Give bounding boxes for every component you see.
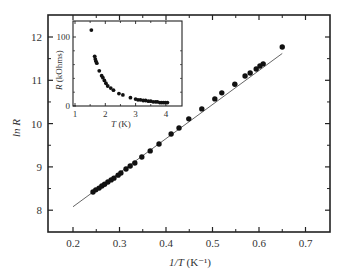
inset-y-axis-title: R (kOhms) (54, 50, 64, 91)
inset-data-point (89, 28, 93, 32)
y-tick-label: 10 (31, 118, 43, 130)
x-tick-label: 0.5 (206, 237, 220, 249)
inset-x-tick-label: 1 (73, 109, 78, 119)
inset-data-point (97, 69, 101, 73)
x-tick-label: 0.4 (159, 237, 173, 249)
inset-y-tick-label: 0 (66, 101, 71, 111)
data-point (176, 125, 181, 130)
data-point (118, 170, 123, 175)
inset-data-point (129, 96, 133, 100)
y-tick-label: 12 (31, 31, 42, 43)
x-tick-label: 0.6 (252, 237, 266, 249)
data-point (186, 116, 191, 121)
x-tick-label: 0.3 (113, 237, 127, 249)
data-point (247, 70, 252, 75)
data-point (139, 154, 144, 159)
inset-x-axis-title: T (K) (111, 119, 131, 129)
data-point (132, 160, 137, 165)
y-tick-label: 11 (31, 74, 42, 86)
data-point (260, 61, 265, 66)
inset-plot-frame (73, 21, 182, 106)
inset-y-tick-label: 100 (57, 32, 71, 42)
data-point (127, 163, 132, 168)
x-tick-label: 0.7 (299, 237, 313, 249)
main-y-axis-title: ln R (10, 119, 22, 137)
inset-data-point (166, 101, 170, 105)
inset-x-tick-label: 3 (133, 109, 138, 119)
data-point (212, 96, 217, 101)
data-point (242, 73, 247, 78)
inset-data-point (95, 61, 99, 65)
data-point (232, 81, 237, 86)
inset-plot: 1234 0100 R (kOhms) T (K) (54, 21, 182, 129)
data-point (199, 106, 204, 111)
data-point (168, 131, 173, 136)
inset-x-tick-label: 4 (164, 109, 169, 119)
y-tick-label: 8 (37, 204, 43, 216)
data-point (156, 141, 161, 146)
inset-data-point (112, 88, 116, 92)
main-x-axis-title: 1/T (K⁻¹) (169, 256, 211, 269)
data-point (280, 44, 285, 49)
inset-x-tick-label: 2 (103, 109, 108, 119)
chart-canvas: 0.20.30.40.50.60.7 89101112 ln R 1/T (K⁻… (0, 0, 345, 274)
inset-data-point (117, 92, 121, 96)
inset-data-point (121, 93, 125, 97)
data-point (219, 90, 224, 95)
x-tick-label: 0.2 (66, 237, 80, 249)
y-tick-label: 9 (37, 161, 43, 173)
data-point (147, 148, 152, 153)
